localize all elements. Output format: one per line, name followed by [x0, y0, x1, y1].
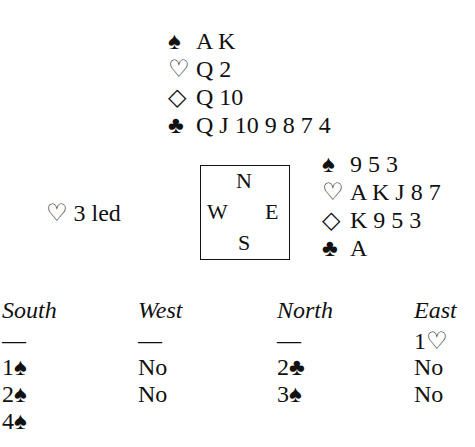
opening-lead: ♡ 3 led	[46, 199, 121, 227]
bid: 2♠	[2, 381, 27, 408]
north-hearts: ♡Q 2	[168, 55, 331, 83]
east-clubs: ♣A	[322, 234, 441, 262]
east-hearts-cards: A K J 8 7	[350, 179, 441, 205]
header-east: East	[414, 297, 457, 324]
club-icon: ♣	[168, 111, 196, 139]
north-diamonds: ◇Q 10	[168, 83, 331, 111]
heart-icon: ♡	[46, 200, 68, 226]
bid: 1♡	[414, 327, 448, 355]
diamond-icon: ◇	[322, 206, 350, 234]
bid: —	[277, 327, 301, 354]
bid: 2♣	[277, 354, 305, 381]
bid: No	[414, 381, 443, 408]
heart-icon: ♡	[322, 178, 350, 206]
header-south: South	[2, 297, 57, 324]
compass-south: S	[238, 230, 250, 256]
heart-icon: ♡	[168, 55, 196, 83]
east-hand: ♠9 5 3 ♡A K J 8 7 ◇K 9 5 3 ♣A	[322, 150, 441, 262]
bid: No	[414, 354, 443, 381]
compass-north: N	[236, 168, 252, 194]
bidding-table: South West North East — — — 1♡ 1♠ No 2♣ …	[0, 297, 475, 435]
bid: 4♠	[2, 408, 27, 435]
bidding-row: — — — 1♡	[0, 327, 475, 354]
compass-east: E	[265, 199, 278, 225]
bid: —	[138, 327, 162, 354]
bid: —	[2, 327, 26, 354]
header-north: North	[277, 297, 333, 324]
bidding-header: South West North East	[0, 297, 475, 327]
north-hand: ♠A K ♡Q 2 ◇Q 10 ♣Q J 10 9 8 7 4	[168, 27, 331, 139]
spade-icon: ♠	[322, 150, 350, 178]
east-spades-cards: 9 5 3	[350, 151, 398, 177]
north-clubs: ♣Q J 10 9 8 7 4	[168, 111, 331, 139]
diamond-icon: ◇	[168, 83, 196, 111]
east-spades: ♠9 5 3	[322, 150, 441, 178]
club-icon: ♣	[322, 234, 350, 262]
north-spades: ♠A K	[168, 27, 331, 55]
bid: No	[138, 354, 167, 381]
bid: No	[138, 381, 167, 408]
spade-icon: ♠	[168, 27, 196, 55]
north-spades-cards: A K	[196, 28, 235, 54]
east-clubs-cards: A	[350, 235, 367, 261]
east-diamonds: ◇K 9 5 3	[322, 206, 441, 234]
east-hearts: ♡A K J 8 7	[322, 178, 441, 206]
north-diamonds-cards: Q 10	[196, 84, 243, 110]
east-diamonds-cards: K 9 5 3	[350, 207, 421, 233]
bidding-row: 2♠ No 3♠ No	[0, 381, 475, 408]
bid: 1♠	[2, 354, 27, 381]
bidding-row: 1♠ No 2♣ No	[0, 354, 475, 381]
bidding-row: 4♠	[0, 408, 475, 435]
north-clubs-cards: Q J 10 9 8 7 4	[196, 112, 331, 138]
north-hearts-cards: Q 2	[196, 56, 231, 82]
compass-west: W	[207, 199, 228, 225]
lead-text: 3 led	[74, 200, 121, 226]
header-west: West	[138, 297, 182, 324]
compass-box: N W E S	[200, 165, 290, 260]
bid: 3♠	[277, 381, 302, 408]
